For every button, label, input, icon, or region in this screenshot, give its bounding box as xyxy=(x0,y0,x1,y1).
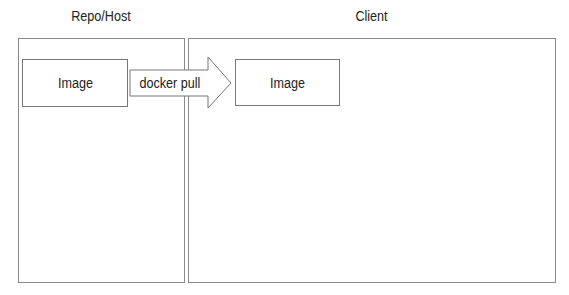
docker-pull-label: docker pull xyxy=(130,70,210,96)
image-target-node: Image xyxy=(235,59,340,106)
docker-pull-arrow-icon xyxy=(0,0,569,295)
image-target-label: Image xyxy=(270,75,305,91)
